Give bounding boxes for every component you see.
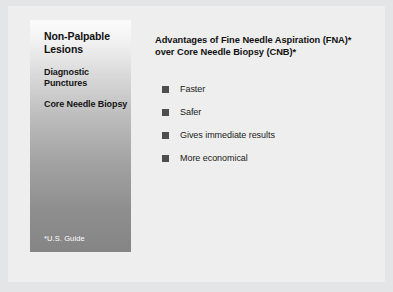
square-bullet-icon	[162, 155, 169, 162]
square-bullet-icon	[162, 109, 169, 116]
content-column: Advantages of Fine Needle Aspiration (FN…	[155, 34, 371, 58]
list-item: Safer	[162, 107, 372, 130]
side-panel-heading: Non-Palpable Lesions	[44, 30, 128, 55]
list-item-label: Faster	[180, 84, 205, 94]
content-heading: Advantages of Fine Needle Aspiration (FN…	[155, 34, 371, 58]
slide-canvas: Non-Palpable Lesions Diagnostic Puncture…	[8, 6, 385, 282]
list-item-label: Safer	[180, 107, 201, 117]
square-bullet-icon	[162, 132, 169, 139]
list-item-label: More economical	[180, 153, 248, 163]
list-item: Faster	[162, 84, 372, 107]
list-item: Gives immediate results	[162, 130, 372, 153]
list-item-label: Gives immediate results	[180, 130, 275, 140]
advantages-list: Faster Safer Gives immediate results Mor…	[162, 84, 372, 176]
square-bullet-icon	[162, 86, 169, 93]
side-panel: Non-Palpable Lesions Diagnostic Puncture…	[30, 20, 131, 252]
side-panel-footnote: *U.S. Guide	[44, 234, 85, 243]
side-panel-subheading-core-needle-biopsy: Core Needle Biopsy	[44, 99, 128, 110]
list-item: More economical	[162, 153, 372, 176]
side-panel-subheading-diagnostic-punctures: Diagnostic Punctures	[44, 67, 128, 89]
